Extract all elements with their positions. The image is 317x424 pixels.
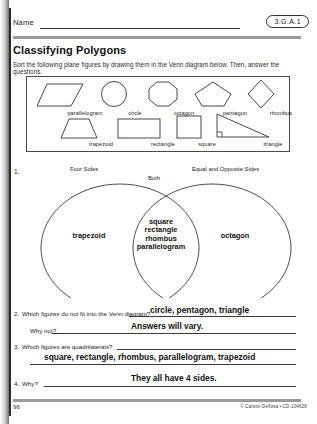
question-2b-answer-line[interactable]	[52, 333, 296, 334]
square-shape	[173, 114, 207, 140]
question-2b-answer: Answers will vary.	[131, 321, 203, 331]
name-label: Name	[13, 18, 34, 27]
venn-diagram[interactable]: Four Sides Both Equal and Opposite Sides…	[24, 166, 296, 298]
publisher-credit: © Carson-Dellosa • CD-104628	[240, 404, 307, 409]
figure-caption: trapezoid	[79, 141, 123, 147]
header-divider-bar	[13, 36, 301, 39]
question-4-number: 4.	[14, 380, 19, 387]
page-title: Classifying Polygons	[13, 44, 126, 56]
figure-rectangle: rectangle	[115, 117, 163, 140]
figure-caption: triangle	[242, 141, 304, 147]
question-3-answer-line-2[interactable]	[30, 364, 296, 365]
page-spine-shadow	[0, 0, 9, 424]
question-2-answer: circle, pentagon, triangle	[150, 305, 249, 315]
question-3-answer-line-1[interactable]	[117, 349, 296, 350]
venn-center-contents: square rectangle rhombus parallelogram	[120, 218, 202, 251]
venn-item-number: 1.	[14, 168, 19, 175]
name-write-line[interactable]	[40, 28, 240, 29]
question-2-answer-line[interactable]	[129, 316, 296, 317]
instructions-text: Sort the following plane figures by draw…	[13, 61, 298, 75]
figure-triangle: triangle	[211, 113, 273, 140]
rhombus-shape	[241, 79, 281, 109]
figure-parallelogram: parallelogram	[35, 82, 85, 108]
question-3-prompt: Which figures are quadrilaterals?	[22, 343, 112, 350]
figure-caption: square	[190, 141, 224, 147]
figure-octagon: octagon	[142, 80, 184, 108]
circle-shape	[93, 80, 135, 108]
page-number: 96	[13, 403, 20, 410]
venn-right-contents: octagon	[192, 232, 278, 240]
figure-caption: parallelogram	[60, 110, 110, 116]
figure-caption: rectangle	[139, 141, 187, 147]
question-4-answer-line[interactable]	[44, 386, 296, 387]
question-2-number: 2.	[14, 310, 19, 317]
parallelogram-shape	[35, 82, 85, 108]
rectangle-shape	[115, 117, 163, 140]
venn-center-item: parallelogram	[120, 243, 202, 251]
standard-code-badge: 3.G.A.1	[266, 15, 309, 28]
name-field-row: Name	[13, 18, 263, 32]
octagon-shape	[142, 80, 184, 108]
right-triangle-shape	[211, 113, 273, 140]
question-4-prompt: Why?	[22, 380, 38, 387]
figure-caption: circle	[114, 110, 156, 116]
figure-bank-box: parallelogram circle octagon pentagon rh	[26, 76, 290, 152]
trapezoid-shape	[57, 117, 101, 140]
figure-square: square	[173, 114, 207, 140]
pentagon-shape	[191, 80, 235, 108]
figure-circle: circle	[93, 80, 135, 108]
worksheet-page: Name 3.G.A.1 Classifying Polygons Sort t…	[0, 0, 317, 424]
figure-pentagon: pentagon	[191, 80, 235, 108]
figure-trapezoid: trapezoid	[57, 117, 101, 140]
question-4-answer: They all have 4 sides.	[131, 373, 217, 383]
question-3-answer: square, rectangle, rhombus, parallelogra…	[44, 352, 255, 362]
figure-rhombus: rhombus	[241, 79, 281, 109]
footer-divider-bar	[13, 399, 301, 402]
question-3-number: 3.	[14, 343, 19, 350]
